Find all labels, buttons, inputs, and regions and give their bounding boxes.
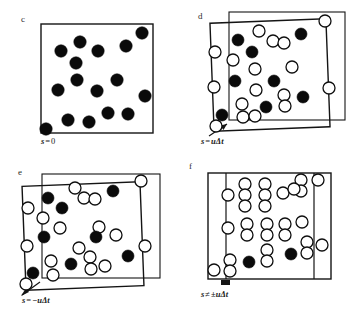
particle-filled — [260, 101, 272, 113]
particle-filled — [55, 45, 67, 57]
particle-filled — [229, 75, 241, 87]
particle-open — [47, 269, 59, 281]
particle-open — [21, 240, 33, 252]
particle-open — [259, 178, 271, 190]
particle-open — [45, 255, 57, 267]
particle-open — [253, 25, 265, 37]
panel-e: e — [0, 156, 181, 312]
panel-c-caption: s=0 — [41, 136, 55, 146]
particle-open — [259, 189, 271, 201]
particle-filled — [295, 28, 307, 40]
particle-open — [222, 189, 234, 201]
particle-open — [54, 222, 66, 234]
particle-filled — [107, 185, 119, 197]
particle-filled — [122, 250, 134, 262]
particle-open — [224, 254, 236, 266]
particle-filled — [83, 116, 95, 128]
particle-filled — [243, 256, 255, 268]
particle-open — [237, 111, 249, 123]
particle-open — [110, 229, 122, 241]
particle-filled — [136, 27, 148, 39]
particle-filled — [92, 45, 104, 57]
panel-d-caption: s=uΔt — [201, 136, 224, 146]
panel-d: d — [181, 0, 362, 156]
particle-open — [312, 174, 324, 186]
particle-open — [210, 120, 222, 132]
particle-filled — [139, 90, 151, 102]
particle-open — [135, 175, 147, 187]
particle-open — [241, 229, 253, 241]
particle-filled — [90, 231, 102, 243]
particle-open — [261, 255, 273, 267]
figure-root: c s=0 — [0, 0, 362, 312]
particle-open — [241, 218, 253, 230]
panel-f: f — [181, 156, 362, 312]
particle-open — [286, 61, 298, 73]
panel-c-artwork — [0, 0, 181, 156]
particle-filled — [91, 85, 103, 97]
particle-filled — [38, 231, 50, 243]
particle-open — [22, 202, 34, 214]
particle-filled — [27, 267, 39, 279]
particle-open — [208, 264, 220, 276]
particle-filled — [120, 40, 132, 52]
particle-open — [301, 247, 313, 259]
particle-open — [89, 193, 101, 205]
particle-open — [288, 183, 300, 195]
particle-open — [209, 46, 221, 58]
particle-open — [278, 89, 290, 101]
panel-f-caption: s≠±uΔt — [201, 289, 228, 299]
particle-filled — [111, 74, 123, 86]
particle-open — [301, 236, 313, 248]
particle-filled — [285, 248, 297, 260]
particle-open — [249, 63, 261, 75]
particle-open — [20, 278, 32, 290]
panel-d-artwork — [181, 0, 362, 156]
caption-value: −uΔt — [32, 295, 50, 305]
panel-e-artwork — [0, 156, 181, 312]
particle-filled — [268, 75, 280, 87]
particle-open — [296, 216, 308, 228]
particle-open — [73, 242, 85, 254]
panel-c: c s=0 — [0, 0, 181, 156]
particle-open — [239, 189, 251, 201]
particle-filled — [70, 57, 82, 69]
panel-e-caption: s=−uΔt — [22, 295, 50, 305]
particle-filled — [102, 107, 114, 119]
particle-open — [236, 98, 248, 110]
caption-value: uΔt — [211, 136, 223, 146]
particle-open — [278, 37, 290, 49]
particle-open — [224, 265, 236, 277]
particle-open — [279, 218, 291, 230]
particle-filled — [297, 91, 309, 103]
particle-open — [250, 84, 262, 96]
particle-open — [239, 178, 251, 190]
particle-filled — [65, 258, 77, 270]
particle-open — [277, 187, 289, 199]
particle-open — [267, 35, 279, 47]
particle-filled — [74, 36, 86, 48]
caption-value: ±uΔt — [211, 289, 228, 299]
particle-open — [239, 200, 251, 212]
particle-open — [84, 251, 96, 263]
particle-open — [78, 192, 90, 204]
particle-filled — [56, 202, 68, 214]
particle-filled — [52, 84, 64, 96]
particle-open — [261, 218, 273, 230]
particle-open — [208, 81, 220, 93]
particle-open — [85, 263, 97, 275]
particle-group — [208, 174, 328, 277]
particle-open — [222, 222, 234, 234]
particle-open — [249, 110, 261, 122]
particle-group-filled — [40, 27, 151, 135]
particle-filled — [71, 74, 83, 86]
particle-filled — [216, 109, 228, 121]
particle-filled — [246, 46, 258, 58]
caption-operator: ≠ — [204, 289, 211, 299]
frame-primary — [41, 24, 153, 133]
particle-open — [323, 82, 335, 94]
particle-open — [69, 182, 81, 194]
particle-open — [227, 54, 239, 66]
particle-filled — [122, 108, 134, 120]
particle-open — [279, 229, 291, 241]
